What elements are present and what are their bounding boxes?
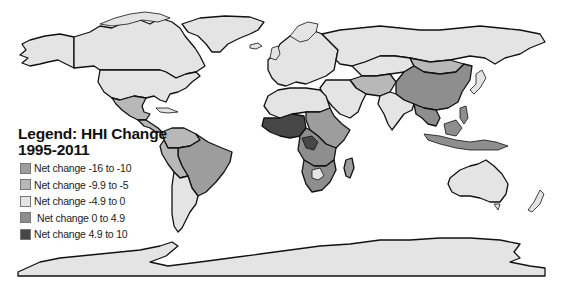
region-united-states — [98, 70, 200, 102]
region-borneo — [444, 120, 462, 136]
legend-item: Net change -4.9 to 0 — [20, 193, 131, 209]
region-indonesia — [424, 134, 508, 150]
legend-title: Legend: HHI Change 1995-2011 — [18, 126, 167, 158]
legend-title-line1: Legend: HHI Change — [18, 126, 167, 142]
legend-swatch — [20, 212, 31, 223]
legend-label: Net change -4.9 to 0 — [34, 195, 125, 207]
region-japan — [470, 70, 486, 94]
region-antarctica — [18, 238, 545, 276]
region-madagascar — [344, 158, 354, 178]
legend-item: Net change -16 to -10 — [20, 160, 131, 176]
legend-swatch — [20, 196, 31, 207]
legend-title-line2: 1995-2011 — [18, 142, 167, 158]
region-west-africa — [262, 114, 306, 138]
legend-label: Net change -9.9 to -5 — [34, 179, 128, 191]
legend-label: Net change -16 to -10 — [34, 162, 131, 174]
region-alaska — [20, 34, 74, 68]
legend-swatch — [20, 229, 31, 240]
region-iceland — [250, 43, 262, 49]
legend: Net change -16 to -10 Net change -9.9 to… — [20, 160, 131, 243]
region-caribbean — [156, 108, 178, 113]
legend-label: Net change 4.9 to 10 — [34, 228, 128, 240]
legend-swatch — [20, 163, 31, 174]
region-new-zealand — [528, 190, 544, 212]
region-russia — [322, 26, 545, 66]
legend-item: Net change -9.9 to -5 — [20, 177, 131, 193]
legend-label: Net change 0 to 4.9 — [37, 212, 125, 224]
region-australia — [448, 160, 508, 202]
region-tasmania — [494, 204, 500, 210]
region-mexico — [112, 96, 150, 120]
legend-item: Net change 0 to 4.9 — [20, 210, 131, 226]
region-philippines — [460, 106, 468, 124]
legend-item: Net change 4.9 to 10 — [20, 226, 131, 242]
legend-swatch — [20, 179, 31, 190]
